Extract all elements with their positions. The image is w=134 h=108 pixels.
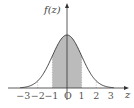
x-tick-label: 2 — [93, 91, 99, 101]
y-axis-label: f(z) — [44, 5, 61, 15]
x-tick-label: 1 — [79, 91, 85, 101]
x-tick-label: −3 — [16, 91, 30, 101]
x-tick-label: −2 — [31, 91, 45, 101]
x-tick-label: 3 — [108, 91, 114, 101]
x-tick-label: O — [64, 91, 72, 101]
x-tick-label: −1 — [44, 91, 58, 101]
y-axis-arrow-icon — [65, 3, 69, 8]
x-axis-label: z — [125, 90, 130, 100]
